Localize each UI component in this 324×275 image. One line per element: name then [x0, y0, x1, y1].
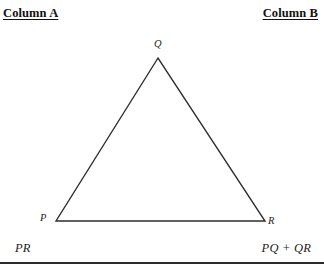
- comparison-problem-page: Column A Column B Q P R PR PQ + QR: [0, 0, 324, 275]
- triangle-outline: [56, 58, 265, 221]
- vertex-label-q: Q: [154, 38, 162, 49]
- column-a-header: Column A: [3, 6, 58, 20]
- column-b-expression: PQ + QR: [262, 241, 311, 255]
- vertex-label-r: R: [268, 215, 274, 226]
- column-b-header: Column B: [263, 6, 318, 20]
- vertex-label-p: P: [40, 212, 46, 223]
- bottom-divider: [0, 262, 324, 264]
- triangle-figure: Q P R: [0, 30, 324, 235]
- triangle-diagram: [0, 30, 324, 235]
- column-a-expression: PR: [15, 241, 31, 255]
